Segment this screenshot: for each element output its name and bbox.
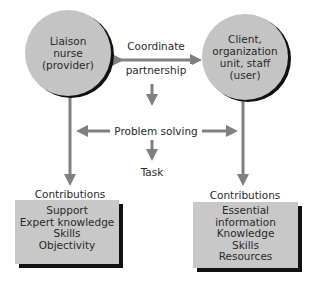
right-contributions-title: Contributions [200,189,290,201]
right-contributions-box: Essential information Knowledge Skills R… [193,202,298,268]
left-contributions-title: Contributions [25,188,115,200]
contribution-item: Knowledge [193,228,298,240]
node-text: organization [212,45,277,57]
node-text: unit, staff [212,57,277,69]
contribution-item: Support [15,205,119,217]
node-text: Client, [212,33,277,45]
node-text: nurse [42,47,94,59]
partnership-label: partnership [120,64,192,76]
contribution-item: Skills [15,228,119,240]
coordinate-label: Coordinate [120,40,192,52]
contribution-item: Objectivity [15,240,119,252]
task-label: Task [130,166,174,178]
liaison-nurse-node: Liaison nurse (provider) [25,10,111,96]
node-text: (user) [212,69,277,81]
contribution-item: Resources [193,251,298,263]
left-contributions-box: Support Expert knowledge Skills Objectiv… [15,200,119,264]
problem-solving-label: Problem solving [110,125,202,137]
client-node: Client, organization unit, staff (user) [202,14,288,100]
node-text: (provider) [42,59,94,71]
contribution-item: Essential [193,205,298,217]
node-text: Liaison [42,35,94,47]
